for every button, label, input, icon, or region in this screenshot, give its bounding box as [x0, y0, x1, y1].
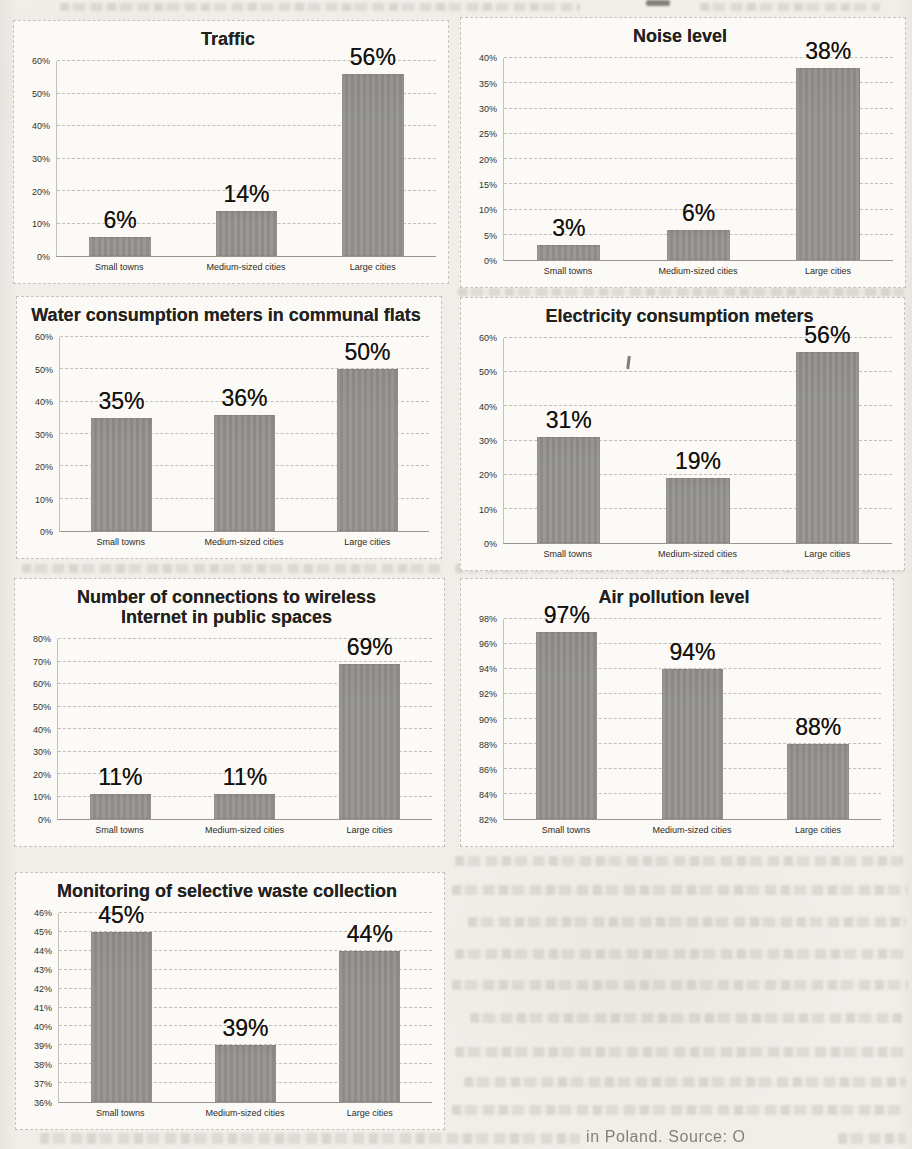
bar-value-label: 50%: [344, 339, 390, 366]
chart-box-waste-monitoring: Monitoring of selective waste collection…: [15, 872, 445, 1130]
bar: [787, 744, 848, 819]
bar-value-label: 6%: [682, 200, 715, 227]
category-label: Medium-sized cities: [633, 544, 763, 564]
bar: [667, 230, 730, 260]
bar-value-label: 45%: [98, 902, 144, 929]
bar-value-label: 56%: [804, 322, 850, 349]
category-label: Small towns: [56, 257, 183, 277]
bar-value-label: 56%: [350, 44, 396, 71]
plot: 31%19%56%: [503, 338, 892, 544]
category-label: Medium-sized cities: [183, 257, 310, 277]
y-tick-label: 30%: [35, 430, 53, 440]
category-label: Medium-sized cities: [183, 1103, 308, 1123]
y-tick-label: 96%: [479, 639, 497, 649]
bar-value-label: 97%: [544, 602, 590, 629]
y-tick-label: 50%: [33, 702, 51, 712]
bar-value-label: 11%: [98, 764, 142, 791]
y-tick-label: 20%: [479, 155, 497, 165]
category-axis: Small townsMedium-sized citiesLarge citi…: [503, 820, 881, 840]
plot-area: 36%37%38%39%40%41%42%43%44%45%46% 45%39%…: [22, 913, 432, 1103]
plot-area: 0%10%20%30%40%50%60%70%80% 11%11%69%: [21, 639, 432, 820]
y-tick-label: 5%: [484, 231, 497, 241]
bleed-text-row: [464, 1077, 906, 1087]
y-tick-label: 45%: [34, 927, 52, 937]
bleed-text-row: [838, 1133, 906, 1144]
bar-value-label: 11%: [223, 764, 267, 791]
bar-value-label: 19%: [675, 448, 721, 475]
category-label: Large cities: [307, 820, 432, 840]
plot-area: 0%10%20%30%40%50%60% 35%36%50%: [23, 337, 429, 532]
bar: [662, 669, 723, 819]
y-tick-label: 60%: [32, 56, 50, 66]
y-tick-label: 70%: [33, 657, 51, 667]
chart-box-wireless-internet: Number of connections to wireless Intern…: [14, 578, 445, 847]
y-axis: 82%84%86%88%90%92%94%96%98%: [467, 619, 503, 820]
y-tick-label: 30%: [32, 154, 50, 164]
y-tick-label: 10%: [32, 219, 50, 229]
category-label: Small towns: [503, 820, 629, 840]
chart-box-water-meters: Water consumption meters in communal fla…: [16, 296, 442, 559]
y-axis: 0%5%10%15%20%25%30%35%40%: [467, 58, 503, 261]
bleed-text-row: [455, 1047, 905, 1057]
category-label: Large cities: [306, 532, 429, 552]
category-label: Small towns: [57, 820, 182, 840]
y-tick-label: 82%: [479, 815, 497, 825]
y-tick-label: 88%: [479, 740, 497, 750]
bleed-text-row: [468, 917, 906, 927]
y-tick-label: 84%: [479, 790, 497, 800]
bar: [89, 237, 151, 256]
y-tick-label: 36%: [34, 1098, 52, 1108]
y-tick-label: 90%: [479, 715, 497, 725]
bleed-text-row: [452, 980, 908, 990]
chart-title: Electricity consumption meters: [541, 306, 817, 326]
bar-value-label: 88%: [795, 714, 841, 741]
bar: [214, 794, 275, 819]
bar: [216, 211, 278, 256]
chart-title: Noise level: [629, 26, 731, 46]
y-tick-label: 40%: [479, 402, 497, 412]
category-label: Small towns: [58, 1103, 183, 1123]
bar: [91, 932, 152, 1102]
chart-title: Air pollution level: [594, 587, 753, 607]
bar-value-label: 39%: [222, 1015, 268, 1042]
category-label: Medium-sized cities: [182, 820, 307, 840]
y-tick-label: 30%: [479, 104, 497, 114]
plot: 97%94%88%: [503, 619, 881, 820]
category-label: Medium-sized cities: [633, 261, 763, 281]
y-tick-label: 92%: [479, 689, 497, 699]
bar-value-label: 35%: [98, 388, 144, 415]
y-tick-label: 44%: [34, 946, 52, 956]
y-tick-label: 30%: [33, 747, 51, 757]
gridline: [60, 336, 429, 337]
plot-area: 0%10%20%30%40%50%60% 6%14%56%: [20, 61, 436, 257]
category-label: Large cities: [307, 1103, 432, 1123]
y-tick-label: 38%: [34, 1060, 52, 1070]
y-tick-label: 50%: [479, 367, 497, 377]
bar-value-label: 44%: [347, 921, 393, 948]
bar: [339, 951, 400, 1102]
y-tick-label: 50%: [35, 365, 53, 375]
y-tick-label: 10%: [479, 505, 497, 515]
bleed-text-row: [22, 564, 440, 573]
y-tick-label: 98%: [479, 614, 497, 624]
bar-value-label: 14%: [223, 181, 269, 208]
category-axis: Small townsMedium-sized citiesLarge citi…: [58, 1103, 432, 1123]
bleed-text-row: [458, 288, 904, 296]
y-tick-label: 60%: [33, 679, 51, 689]
y-axis: 0%10%20%30%40%50%60%: [23, 337, 59, 532]
bleed-text-row: [700, 3, 880, 11]
y-axis: 36%37%38%39%40%41%42%43%44%45%46%: [22, 913, 58, 1103]
category-label: Medium-sized cities: [629, 820, 755, 840]
category-axis: Small townsMedium-sized citiesLarge citi…: [59, 532, 429, 552]
category-axis: Small townsMedium-sized citiesLarge citi…: [56, 257, 436, 277]
y-tick-label: 42%: [34, 984, 52, 994]
category-axis: Small townsMedium-sized citiesLarge citi…: [503, 544, 892, 564]
bleed-text-row: [40, 1133, 580, 1144]
bar: [215, 1045, 276, 1102]
category-label: Medium-sized cities: [182, 532, 305, 552]
y-tick-label: 41%: [34, 1003, 52, 1013]
plot: 35%36%50%: [59, 337, 429, 532]
y-tick-label: 20%: [479, 470, 497, 480]
y-tick-label: 10%: [33, 792, 51, 802]
bleed-text-row: [470, 1013, 902, 1023]
